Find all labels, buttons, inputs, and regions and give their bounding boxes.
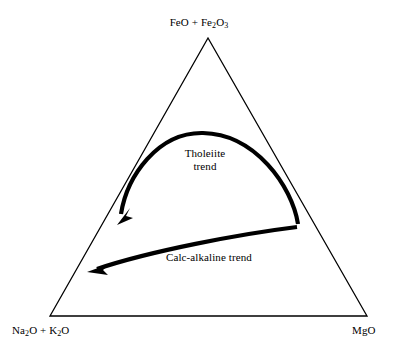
bl-label-sub2: 2 — [57, 329, 61, 338]
triangle-outline — [50, 38, 367, 316]
vertex-label-feo-fe2o3: FeO + Fe2O3 — [0, 16, 398, 30]
calc-alkaline-arrowhead-icon — [87, 264, 109, 275]
bl-label-suffix: O — [61, 324, 69, 336]
diagram-canvas — [0, 0, 398, 352]
tholeiite-trend-label: Tholeiite trend — [155, 147, 255, 173]
ternary-diagram: FeO + Fe2O3 Na2O + K2O MgO Tholeiite tre… — [0, 0, 398, 352]
tholeiite-label-line1: Tholeiite — [185, 147, 226, 159]
apex-label-sub1: 2 — [212, 21, 216, 30]
calc-alkaline-trend-label: Calc-alkaline trend — [166, 251, 252, 264]
bl-label-sub1: 2 — [25, 329, 29, 338]
bl-label-prefix: Na — [12, 324, 25, 336]
vertex-label-mgo: MgO — [352, 324, 376, 337]
tholeiite-arrowhead-icon — [117, 208, 133, 225]
vertex-label-na2o-k2o: Na2O + K2O — [12, 324, 69, 338]
apex-label-sub2: 3 — [224, 21, 228, 30]
tholeiite-label-line2: trend — [155, 160, 255, 173]
apex-label-prefix: FeO + Fe — [170, 16, 212, 28]
bl-label-mid: O + K — [29, 324, 57, 336]
